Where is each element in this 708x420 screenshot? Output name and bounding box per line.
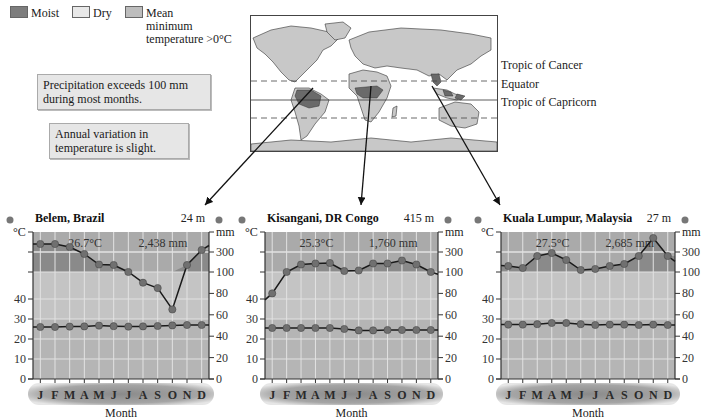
charts-svg: 403020100300100806040200°CmmBelem, Brazi… bbox=[0, 0, 708, 420]
precipitation-marker bbox=[606, 262, 613, 269]
right-tick-label: 100 bbox=[682, 265, 700, 279]
right-tick-label: 300 bbox=[445, 245, 463, 259]
precipitation-marker bbox=[169, 306, 176, 313]
right-tick-label: 60 bbox=[445, 308, 457, 322]
month-label: D bbox=[197, 388, 206, 402]
temperature-marker bbox=[125, 323, 132, 330]
month-label: M bbox=[93, 388, 104, 402]
right-tick-label: 40 bbox=[682, 329, 694, 343]
month-label: N bbox=[412, 388, 421, 402]
right-tick-label: 80 bbox=[682, 286, 694, 300]
month-band: JFMAMJJASOND bbox=[260, 383, 443, 405]
month-label: J bbox=[111, 388, 117, 402]
right-tick-label: 0 bbox=[445, 372, 451, 386]
temperature-marker bbox=[198, 321, 205, 328]
precipitation-marker bbox=[548, 249, 555, 256]
month-label: A bbox=[369, 388, 378, 402]
left-tick-label: 10 bbox=[482, 352, 494, 366]
precipitation-marker bbox=[621, 260, 628, 267]
month-label: D bbox=[426, 388, 435, 402]
precipitation-marker bbox=[183, 261, 190, 268]
precipitation-marker bbox=[326, 259, 333, 266]
precipitation-marker bbox=[269, 290, 276, 297]
month-label: O bbox=[397, 388, 406, 402]
temperature-marker bbox=[384, 326, 391, 333]
precipitation-marker bbox=[577, 266, 584, 273]
month-label: A bbox=[311, 388, 320, 402]
temperature-marker bbox=[283, 324, 290, 331]
temperature-marker bbox=[312, 324, 319, 331]
precipitation-marker bbox=[592, 265, 599, 272]
temperature-marker bbox=[297, 324, 304, 331]
mean-temp-annotation: 25.3°C bbox=[300, 236, 334, 250]
month-label: F bbox=[519, 388, 526, 402]
precipitation-marker bbox=[198, 246, 205, 253]
annual-precip-annotation: 1,760 mm bbox=[369, 236, 418, 250]
precipitation-marker bbox=[650, 234, 657, 241]
month-label: D bbox=[663, 388, 672, 402]
temperature-marker bbox=[326, 324, 333, 331]
right-tick-label: 20 bbox=[445, 351, 457, 365]
temperature-marker bbox=[139, 323, 146, 330]
left-tick-label: 20 bbox=[246, 332, 258, 346]
right-tick-label: 0 bbox=[682, 372, 688, 386]
right-tick-label: 40 bbox=[445, 329, 457, 343]
right-tick-label: 60 bbox=[216, 308, 228, 322]
left-tick-label: 40 bbox=[246, 292, 258, 306]
temperature-marker bbox=[154, 322, 161, 329]
left-unit-label: °C bbox=[481, 225, 494, 239]
precipitation-marker bbox=[297, 261, 304, 268]
temperature-marker bbox=[398, 326, 405, 333]
temperature-dot-icon bbox=[239, 217, 246, 224]
left-tick-label: 0 bbox=[252, 372, 258, 386]
precipitation-marker bbox=[283, 268, 290, 275]
temperature-marker bbox=[355, 327, 362, 334]
temperature-marker bbox=[577, 321, 584, 328]
right-unit-label: mm bbox=[445, 225, 464, 239]
precipitation-marker bbox=[95, 261, 102, 268]
temperature-marker bbox=[81, 323, 88, 330]
precipitation-marker bbox=[312, 260, 319, 267]
temperature-marker bbox=[341, 325, 348, 332]
left-tick-label: 10 bbox=[246, 352, 258, 366]
mean-temp-annotation: 27.5°C bbox=[536, 236, 570, 250]
left-tick-label: 0 bbox=[20, 372, 26, 386]
precipitation-marker bbox=[341, 267, 348, 274]
month-label: O bbox=[634, 388, 643, 402]
month-label: J bbox=[592, 388, 598, 402]
temperature-dot-icon bbox=[7, 217, 14, 224]
temperature-marker bbox=[95, 322, 102, 329]
month-label: M bbox=[64, 388, 75, 402]
month-label: M bbox=[295, 388, 306, 402]
right-tick-label: 100 bbox=[445, 265, 463, 279]
right-tick-label: 20 bbox=[216, 351, 228, 365]
right-tick-label: 300 bbox=[682, 245, 700, 259]
x-axis-title: Month bbox=[572, 406, 604, 420]
month-label: N bbox=[649, 388, 658, 402]
temperature-marker bbox=[534, 321, 541, 328]
left-tick-label: 20 bbox=[482, 332, 494, 346]
temperature-dot-icon bbox=[475, 217, 482, 224]
left-tick-label: 30 bbox=[14, 312, 26, 326]
left-unit-label: °C bbox=[245, 225, 258, 239]
month-label: J bbox=[269, 388, 275, 402]
temperature-marker bbox=[427, 326, 434, 333]
temperature-marker bbox=[51, 323, 58, 330]
month-label: J bbox=[37, 388, 43, 402]
month-label: M bbox=[324, 388, 335, 402]
temperature-marker bbox=[169, 322, 176, 329]
right-tick-label: 80 bbox=[216, 286, 228, 300]
month-label: S bbox=[384, 388, 391, 402]
right-tick-label: 0 bbox=[216, 372, 222, 386]
month-label: M bbox=[532, 388, 543, 402]
month-band: JFMAMJJASOND bbox=[496, 383, 680, 405]
precipitation-marker bbox=[384, 260, 391, 267]
month-label: A bbox=[139, 388, 148, 402]
precipitation-marker bbox=[370, 260, 377, 267]
climate-chart-0: 403020100300100806040200°CmmBelem, Brazi… bbox=[7, 211, 236, 420]
precipitation-dot-icon bbox=[682, 217, 689, 224]
precipitation-marker bbox=[81, 250, 88, 257]
chart-title: Belem, Brazil bbox=[35, 211, 105, 225]
left-tick-label: 10 bbox=[14, 352, 26, 366]
left-tick-label: 20 bbox=[14, 332, 26, 346]
